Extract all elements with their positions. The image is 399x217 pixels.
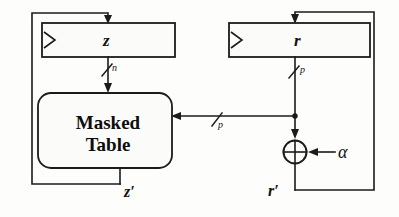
r-register-label: r [294, 32, 301, 49]
z-bus-width-label: n [112, 63, 117, 73]
alpha-input-arrowhead [308, 148, 318, 156]
masked-table-label-line1: Masked [38, 112, 178, 133]
alpha-label: α [338, 143, 347, 161]
z-bus-slash-icon [102, 64, 112, 76]
mask-bus-width-label: p [218, 120, 223, 130]
z-register-label: z [103, 32, 110, 49]
diagram-canvas [0, 0, 399, 217]
z-output-arrowhead [104, 83, 112, 93]
r-prime-label: r′ [268, 183, 279, 199]
r-to-xor-arrowhead [291, 129, 299, 139]
r-bus-slash-icon [289, 66, 299, 78]
masked-table-label-line2: Table [38, 134, 178, 155]
r-bus-width-label: p [300, 65, 305, 75]
masked-table-diagram: z r Masked Table n p p z′ r′ α [0, 0, 399, 217]
z-prime-label: z′ [124, 184, 135, 200]
